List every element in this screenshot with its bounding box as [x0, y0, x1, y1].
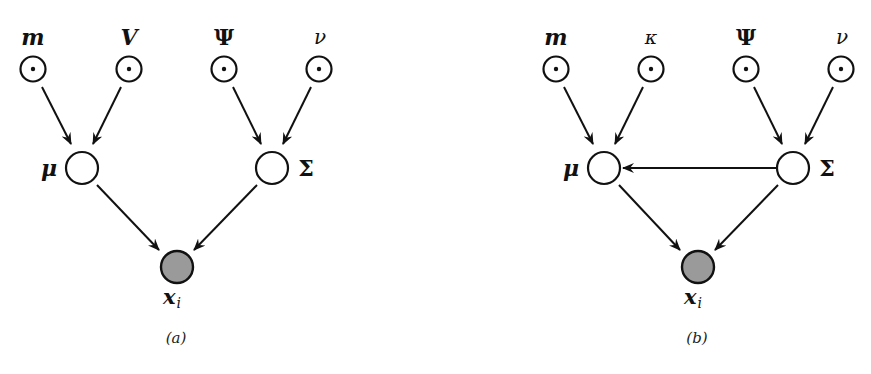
label-a-m: m	[21, 24, 44, 50]
label-b-Psi: Ψ	[736, 24, 756, 50]
edge-a-V-mu	[93, 87, 121, 144]
node-a-nu: ν	[307, 25, 332, 82]
node-b-Psi: Ψ	[734, 24, 759, 82]
node-a-m: m	[21, 24, 46, 82]
edge-b-m-mu	[564, 87, 593, 144]
label-a-V: V	[120, 24, 139, 50]
diagram-a: m V Ψ ν μ Σ xi	[21, 24, 332, 347]
edge-a-m-mu	[42, 87, 71, 144]
edge-b-Psi-Sigma	[754, 87, 782, 144]
edge-a-nu-Sigma	[283, 87, 311, 144]
node-b-kappa: κ	[639, 26, 664, 82]
node-a-Psi: Ψ	[212, 24, 237, 82]
label-b-x: xi	[683, 284, 702, 311]
node-a-V: V	[117, 24, 142, 82]
label-a-nu: ν	[314, 25, 326, 49]
caption-a: (a)	[166, 329, 187, 347]
label-a-Psi: Ψ	[214, 24, 234, 50]
edge-a-mu-x	[97, 185, 159, 250]
node-b-nu: ν	[829, 25, 854, 82]
node-b-mu: μ	[563, 152, 620, 184]
label-b-m: m	[544, 24, 567, 50]
label-b-kappa: κ	[644, 26, 658, 48]
edge-b-kappa-mu	[615, 87, 643, 144]
label-b-mu: μ	[563, 155, 579, 181]
node-b-x: xi	[682, 251, 714, 311]
node-a-x: xi	[161, 251, 193, 311]
edge-b-Sigma-x	[715, 185, 778, 250]
edge-b-mu-x	[619, 185, 680, 250]
edge-a-Psi-Sigma	[233, 87, 261, 144]
label-a-x: xi	[162, 284, 181, 311]
node-b-m: m	[544, 24, 569, 82]
node-a-mu: μ	[41, 152, 98, 184]
diagram-b: m κ Ψ ν μ Σ xi	[544, 24, 854, 347]
label-b-Sigma: Σ	[819, 155, 835, 181]
edge-a-Sigma-x	[194, 185, 257, 250]
caption-b: (b)	[686, 329, 707, 347]
label-b-nu: ν	[836, 25, 848, 49]
edge-b-nu-Sigma	[805, 87, 833, 144]
label-a-mu: μ	[41, 155, 57, 181]
label-a-Sigma: Σ	[298, 155, 314, 181]
node-a-Sigma: Σ	[256, 152, 314, 184]
node-b-Sigma: Σ	[777, 152, 835, 184]
diagram-canvas: m V Ψ ν μ Σ xi	[0, 0, 871, 374]
